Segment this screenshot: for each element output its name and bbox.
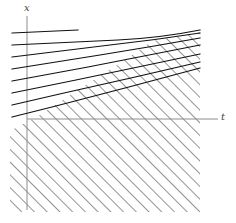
characteristic-1 [12,30,78,33]
x-axis-label: t [221,112,225,122]
y-axis-label: x [24,3,30,13]
figure-svg [0,0,236,223]
figure-canvas: x t [0,0,236,223]
